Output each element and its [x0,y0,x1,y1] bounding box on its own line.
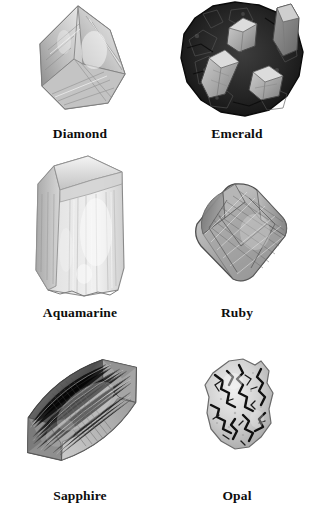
specimen-label-sapphire: Sapphire [0,488,160,503]
ruby-crystal-image [189,180,294,290]
opal-nodule-image [199,357,279,457]
aquamarine-crystal-image [26,150,136,298]
specimen-label-ruby: Ruby [157,305,317,320]
specimen-label-emerald: Emerald [157,126,317,141]
specimen-cell-sapphire: Sapphire [0,325,160,525]
specimen-label-diamond: Diamond [0,126,160,141]
sapphire-crystal-image [5,343,160,478]
specimen-cell-ruby: Ruby [157,150,317,325]
specimen-cell-opal: Opal [157,325,317,525]
emerald-crystal-image [173,0,308,120]
specimen-label-aquamarine: Aquamarine [0,305,160,320]
specimen-cell-diamond: Diamond [0,0,160,150]
gemstone-specimen-plate: Diamond [0,0,317,525]
diamond-crystal-image [34,2,129,120]
specimen-label-opal: Opal [157,488,317,503]
specimen-cell-aquamarine: Aquamarine [0,150,160,325]
specimen-cell-emerald: Emerald [157,0,317,150]
